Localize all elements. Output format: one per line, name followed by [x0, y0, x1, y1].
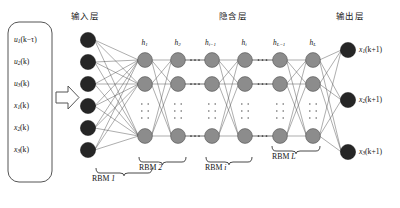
hidden-node-c5-r3: [273, 129, 288, 144]
horizontal-ellipsis-dot: [262, 83, 264, 85]
vertical-ellipsis-dot: [180, 117, 182, 119]
hidden-node-c5-r2: [273, 77, 288, 92]
vertical-ellipsis-dot: [147, 103, 149, 105]
vertical-ellipsis-dot: [208, 110, 210, 112]
vertical-ellipsis-dot: [276, 110, 278, 112]
rbm-label-4: RBM L: [272, 152, 296, 161]
output-node-2: [340, 92, 355, 107]
input-variable-label-1: u1(k−τ): [14, 35, 37, 44]
vertical-ellipsis-dot: [214, 103, 216, 105]
hidden-node-c1-r1: [138, 53, 153, 68]
horizontal-ellipsis-dot: [258, 83, 260, 85]
vertical-ellipsis-dot: [214, 117, 216, 119]
input-node-1: [80, 32, 95, 47]
hidden-layer-label-4: hi: [242, 38, 247, 47]
neural-network-svg: [0, 0, 400, 208]
vertical-ellipsis-dot: [247, 110, 249, 112]
vertical-ellipsis-dot: [276, 103, 278, 105]
hidden-node-c4-r1: [238, 53, 253, 68]
horizontal-ellipsis-dot: [194, 59, 196, 61]
header-output-layer: 输出层: [336, 9, 364, 21]
horizontal-ellipsis-dot: [190, 83, 192, 85]
vertical-ellipsis-dot: [180, 103, 182, 105]
hidden-node-c1-r2: [138, 77, 153, 92]
rbm-label-2: RBM 2: [139, 163, 162, 172]
hidden-node-c2-r2: [171, 77, 186, 92]
input-variable-label-4: x1(k): [14, 101, 29, 110]
hidden-layer-label-2: h2: [175, 38, 181, 47]
hidden-node-c1-r3: [138, 129, 153, 144]
input-node-2: [80, 54, 95, 69]
hidden-layer-label-3: hi−1: [205, 38, 216, 47]
header-input-layer: 输入层: [71, 9, 99, 21]
output-variable-label-3: x3(k+1): [359, 147, 382, 156]
vertical-ellipsis-dot: [282, 103, 284, 105]
horizontal-ellipsis-dot: [190, 135, 192, 137]
vertical-ellipsis-dot: [309, 110, 311, 112]
horizontal-ellipsis-dot: [258, 59, 260, 61]
horizontal-ellipsis-dot: [266, 59, 268, 61]
output-variable-label-1: x1(k+1): [359, 45, 382, 54]
vertical-ellipsis-dot: [174, 103, 176, 105]
hidden-layer-label-1: h1: [142, 38, 148, 47]
hidden-node-c4-r3: [238, 129, 253, 144]
network-diagram-canvas: 输入层 隐含层 输出层 u1(k−τ)u2(k)u3(k)x1(k)x2(k)x…: [0, 0, 400, 208]
vertical-ellipsis-dot: [141, 110, 143, 112]
vertical-ellipsis-dot: [241, 117, 243, 119]
header-hidden-layer: 隐含层: [219, 9, 247, 21]
vertical-ellipsis-dot: [247, 103, 249, 105]
vertical-ellipsis-dot: [241, 110, 243, 112]
input-node-3: [80, 76, 95, 91]
vertical-ellipsis-dot: [208, 103, 210, 105]
vertical-ellipsis-dot: [309, 103, 311, 105]
vertical-ellipsis-dot: [174, 110, 176, 112]
hidden-node-c3-r2: [205, 77, 220, 92]
vertical-ellipsis-dot: [282, 117, 284, 119]
vertical-ellipsis-dot: [141, 103, 143, 105]
vertical-ellipsis-dot: [180, 110, 182, 112]
horizontal-ellipsis-dot: [190, 59, 192, 61]
hidden-node-c3-r3: [205, 129, 220, 144]
vertical-ellipsis-dot: [315, 103, 317, 105]
hidden-node-c4-r2: [238, 77, 253, 92]
horizontal-ellipsis-dot: [262, 59, 264, 61]
hidden-node-c6-r1: [306, 53, 321, 68]
horizontal-ellipsis-dot: [266, 135, 268, 137]
vertical-ellipsis-dot: [282, 110, 284, 112]
vertical-ellipsis-dot: [247, 117, 249, 119]
vertical-ellipsis-dot: [315, 117, 317, 119]
vertical-ellipsis-dot: [208, 117, 210, 119]
vertical-ellipsis-dot: [174, 117, 176, 119]
output-node-1: [340, 42, 355, 57]
input-variable-label-6: x3(k): [14, 145, 29, 154]
horizontal-ellipsis-dot: [198, 83, 200, 85]
hidden-node-c5-r1: [273, 53, 288, 68]
vertical-ellipsis-dot: [147, 117, 149, 119]
input-variable-label-3: u3(k): [14, 79, 29, 88]
horizontal-ellipsis-dot: [258, 135, 260, 137]
input-node-6: [80, 142, 95, 157]
hidden-node-c6-r3: [306, 129, 321, 144]
hidden-layer-label-6: hL: [310, 38, 316, 47]
vertical-ellipsis-dot: [309, 117, 311, 119]
horizontal-ellipsis-dot: [198, 59, 200, 61]
vertical-ellipsis-dot: [315, 110, 317, 112]
horizontal-ellipsis-dot: [194, 83, 196, 85]
hidden-node-c2-r1: [171, 53, 186, 68]
network-nodes: [80, 32, 355, 159]
hidden-node-c2-r3: [171, 129, 186, 144]
horizontal-ellipsis-dot: [266, 83, 268, 85]
input-node-5: [80, 120, 95, 135]
vertical-ellipsis-dot: [241, 103, 243, 105]
output-variable-label-2: x2(k+1): [359, 95, 382, 104]
horizontal-ellipsis-dot: [194, 135, 196, 137]
vertical-ellipsis-dot: [276, 117, 278, 119]
vertical-ellipsis-dot: [147, 110, 149, 112]
hidden-node-c3-r1: [205, 53, 220, 68]
rbm-label-3: RBM i: [205, 163, 226, 172]
output-node-3: [340, 144, 355, 159]
input-variable-label-2: u2(k): [14, 57, 29, 66]
horizontal-ellipsis-dot: [262, 135, 264, 137]
horizontal-ellipsis-dot: [198, 135, 200, 137]
flow-arrow-right-icon: [56, 86, 79, 109]
